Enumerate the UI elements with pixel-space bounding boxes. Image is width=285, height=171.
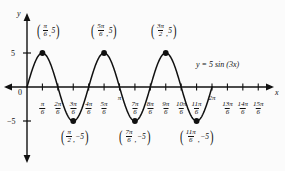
x-tick-label: 4π6: [84, 92, 93, 116]
data-point-dot: [163, 50, 169, 56]
equation-text: y = 5 sin (3x): [196, 60, 239, 69]
sine-graph-figure: 0 y x 5 −5 π62π63π64π65π6π7π68π69π610π61…: [0, 0, 285, 171]
y-tick-label-neg5: −5: [7, 117, 16, 126]
x-tick-label: 9π6: [161, 92, 170, 116]
x-tick-label: 3π6: [69, 92, 78, 116]
x-tick-label: 7π6: [130, 92, 139, 116]
x-tick-label: 10π6: [175, 92, 188, 116]
point-label-min-1: (π2,−5): [60, 129, 90, 145]
equation-annotation: y = 5 sin (3x): [196, 60, 239, 69]
point-label-max-1: (π6,5): [36, 23, 60, 39]
data-point-dot: [194, 118, 200, 124]
x-tick-label: π6: [40, 92, 46, 116]
data-point-dot: [132, 118, 138, 124]
y-axis: [24, 13, 31, 163]
x-axis: [4, 84, 274, 91]
y-tick-label-5: 5: [11, 49, 15, 58]
x-tick-label: 2π: [208, 94, 215, 102]
y-axis-label: y: [17, 9, 21, 18]
data-point-dot: [70, 118, 76, 124]
x-tick-label: 11π6: [191, 92, 203, 116]
point-label-min-3: (11π6,−5): [179, 129, 215, 145]
x-axis-label: x: [275, 88, 279, 97]
point-label-max-2: (5π6,5): [90, 23, 118, 39]
origin-label: 0: [18, 88, 22, 97]
x-tick-label: π: [118, 94, 122, 102]
x-tick-label: 13π6: [221, 92, 234, 116]
x-tick-label: 15π6: [252, 92, 265, 116]
x-tick-label: 14π6: [237, 92, 250, 116]
x-tick-label: 8π6: [146, 92, 155, 116]
data-point-dot: [40, 50, 46, 56]
point-label-max-3: (3π2,5): [150, 23, 178, 39]
x-tick-label: 5π6: [100, 92, 109, 116]
data-point-dot: [101, 50, 107, 56]
x-tick-label: 2π6: [53, 92, 62, 116]
point-label-min-2: (7π6,−5): [118, 129, 151, 145]
